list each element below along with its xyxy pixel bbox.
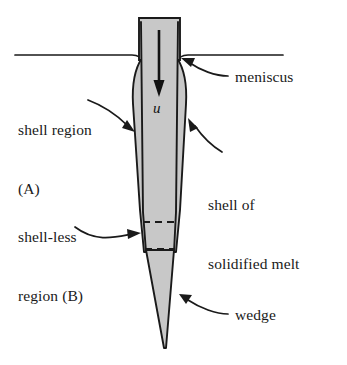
wedge-leader-arrowhead xyxy=(179,294,192,304)
shell-less-region-label-line1: shell-less xyxy=(18,227,83,247)
velocity-label: u xyxy=(153,100,161,117)
shell-of-melt-label: shell of solidified melt xyxy=(208,155,299,314)
shell-region-label-line1: shell region xyxy=(18,120,92,140)
shell-less-region-leader-arrowhead xyxy=(127,229,141,239)
figure-container: shell region (A) shell-less region (B) m… xyxy=(0,0,347,365)
wedge-tip xyxy=(146,250,174,348)
shell-less-region-label-line2: region (B) xyxy=(18,286,83,306)
shell-of-melt-label-line1: shell of xyxy=(208,195,299,215)
wedge-label: wedge xyxy=(235,305,276,325)
shell-less-region-label: shell-less region (B) xyxy=(18,187,83,346)
shell-of-melt-leader-line xyxy=(195,126,222,152)
shell-of-melt-leader-arrowhead xyxy=(188,118,198,132)
meniscus-line-left xyxy=(15,55,143,72)
meniscus-leader-line xyxy=(190,63,228,76)
meniscus-label: meniscus xyxy=(235,67,294,87)
shell-of-melt-label-line2: solidified melt xyxy=(208,254,299,274)
shell-region-leader-line xyxy=(88,100,128,126)
